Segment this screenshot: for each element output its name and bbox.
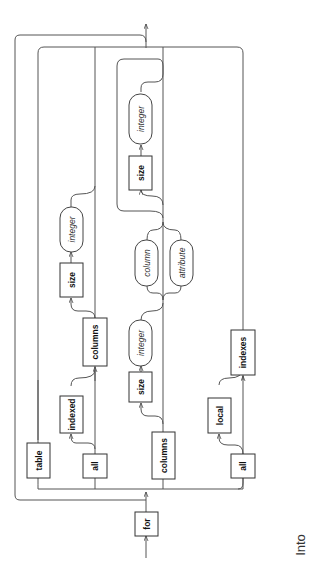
nonterminal-integer-3: integer (129, 94, 152, 144)
svg-text:integer: integer (136, 105, 146, 132)
svg-text:size: size (67, 272, 77, 288)
keyword-all-2: all (231, 454, 255, 478)
svg-text:all: all (90, 461, 100, 470)
svg-text:size: size (136, 379, 146, 395)
keyword-local: local (208, 398, 231, 433)
nonterminal-integer-2: integer (129, 320, 152, 366)
integer-1-out (71, 186, 95, 207)
integer-2-out (141, 303, 163, 320)
caption-text: Into (293, 534, 308, 556)
to-column (147, 286, 163, 300)
svg-text:indexed: indexed (67, 398, 77, 430)
attribute-out (163, 222, 181, 240)
svg-text:integer: integer (136, 329, 146, 356)
caption-into: Into (290, 527, 310, 563)
keyword-size-2: size (129, 372, 152, 402)
nonterminal-attribute: attribute (170, 240, 193, 286)
keyword-size-1: size (60, 263, 83, 297)
svg-text:table: table (34, 450, 44, 470)
keyword-table: table (27, 443, 50, 478)
to-size-2 (141, 403, 163, 424)
indexed-out (71, 370, 95, 386)
svg-text:local: local (215, 406, 225, 425)
svg-text:integer: integer (67, 215, 77, 242)
keyword-indexes: indexes (231, 330, 255, 375)
keyword-indexed: indexed (60, 396, 83, 433)
to-local (219, 434, 243, 454)
b2-to-indexed (71, 434, 95, 449)
svg-text:indexes: indexes (238, 336, 248, 368)
keyword-all-1: all (83, 454, 107, 478)
svg-text:attribute: attribute (177, 247, 187, 278)
column-out (147, 222, 163, 240)
railroad-diagram: for table all indexed columns size integ… (0, 0, 322, 569)
nonterminal-column: column (135, 240, 158, 286)
keyword-size-3: size (129, 156, 152, 190)
svg-text:column: column (142, 249, 152, 277)
keyword-columns-2: columns (152, 432, 175, 479)
svg-text:for: for (142, 518, 152, 530)
to-size-3 (141, 190, 163, 205)
svg-text:columns: columns (90, 324, 100, 359)
nonterminal-integer-1: integer (60, 207, 83, 252)
to-attribute (163, 286, 181, 300)
svg-text:all: all (238, 461, 248, 470)
to-size-1 (71, 298, 95, 318)
svg-text:size: size (136, 165, 146, 181)
keyword-for: for (135, 512, 158, 536)
svg-text:columns: columns (159, 438, 169, 473)
keyword-columns-1: columns (83, 318, 107, 366)
